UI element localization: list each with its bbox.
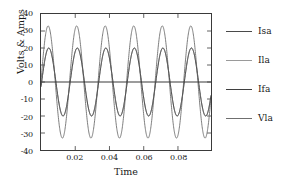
y-tick-label: 0 — [28, 78, 33, 87]
legend-item-label: Ifa — [258, 85, 270, 94]
x-axis-title: Time — [40, 166, 212, 177]
legend-line-icon — [226, 31, 252, 32]
y-tick-label: -10 — [21, 95, 33, 104]
legend-item-label: Isa — [258, 27, 272, 36]
legend-line-icon — [226, 118, 252, 119]
y-tick-label: 10 — [23, 60, 33, 69]
x-tick-label: 0.06 — [135, 153, 152, 162]
legend-line-icon — [226, 60, 252, 61]
x-tick-label: 0.04 — [101, 153, 118, 162]
legend-item-ifa[interactable]: Ifa — [226, 82, 288, 96]
y-tick-label: 40 — [23, 9, 33, 18]
y-tick-label: 20 — [23, 43, 33, 52]
x-axis-tick-labels: 0.020.040.060.08 — [40, 153, 212, 165]
y-tick-label: 30 — [23, 26, 33, 35]
legend-item-isa[interactable]: Isa — [226, 24, 288, 38]
y-tick-label: -40 — [21, 147, 33, 156]
legend-line-icon — [226, 89, 252, 90]
chart-figure: Volts & Amps 403020100-10-20-30-40 0.020… — [0, 0, 288, 183]
legend-item-label: Ila — [258, 56, 270, 65]
plot-area — [40, 13, 212, 151]
legend-item-label: Vla — [258, 114, 273, 123]
legend-item-ila[interactable]: Ila — [226, 53, 288, 67]
y-tick-label: -20 — [21, 112, 33, 121]
x-tick-label: 0.02 — [66, 153, 83, 162]
legend-item-vla[interactable]: Vla — [226, 111, 288, 125]
y-tick-label: -30 — [21, 129, 33, 138]
chart-legend: IsaIlaIfaVla — [226, 24, 288, 140]
x-tick-label: 0.08 — [170, 153, 187, 162]
y-axis-tick-labels: 403020100-10-20-30-40 — [0, 13, 37, 151]
plot-curves — [41, 14, 211, 150]
